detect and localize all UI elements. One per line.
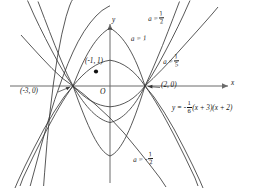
equation-lhs: y = -	[172, 104, 186, 112]
curve-label-a-fifth-text: a =	[163, 57, 174, 66]
curve-a-fifth	[73, 60, 145, 86]
arrow-right-root-head	[148, 85, 152, 89]
curve-a-half	[30, 6, 110, 186]
math-figure: x y O (-3, 0) (2, 0) (-1, 1) a =12 a = 1…	[0, 0, 266, 194]
x-axis-label: x	[231, 80, 234, 87]
curve-label-a-half-text: a =	[148, 14, 159, 23]
fraction-denominator: 2	[148, 158, 154, 166]
curve-label-a-neg-half-text: a = -	[133, 155, 148, 164]
origin-label: O	[100, 88, 105, 96]
curve-left-steep-2	[28, 1, 74, 87]
y-axis-label: y	[112, 17, 115, 24]
curve-label-a-half-fraction: 12	[158, 10, 164, 25]
curve-label-a-fifth: a =15	[163, 53, 180, 69]
x-axis-arrow	[222, 83, 228, 89]
curve-label-a-neg-half: a = -12	[133, 151, 154, 167]
curve-a-fifth-wings	[20, 86, 73, 186]
common-point-marker	[94, 69, 98, 73]
equation-rhs: (x + 3)(x + 2)	[192, 104, 232, 112]
fraction-denominator: 2	[159, 17, 165, 25]
fraction-denominator: 5	[174, 60, 180, 68]
parabola-family	[15, 0, 218, 188]
equation-label: y = -16(x + 3)(x + 2)	[172, 100, 232, 115]
curve-left-steep-1	[38, 2, 73, 87]
curve-label-a-neg-half-fraction: 12	[148, 151, 154, 166]
curve-label-a-one: a = 1	[131, 35, 147, 43]
right-root-label: (2, 0)	[161, 82, 177, 89]
curve-label-a-half: a =12	[148, 10, 165, 26]
left-root-label: (-3, 0)	[20, 88, 38, 95]
curve-label-a-fifth-fraction: 15	[173, 53, 179, 68]
common-point-label: (-1, 1)	[85, 58, 103, 65]
